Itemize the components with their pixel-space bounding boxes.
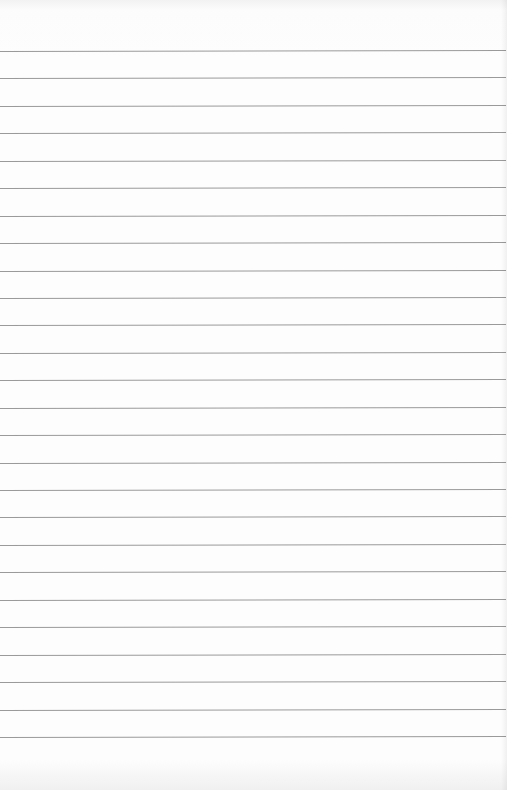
ruled-line [0, 516, 506, 518]
ruled-line [0, 736, 506, 738]
ruled-line [0, 434, 506, 436]
ruled-line [0, 571, 506, 573]
ruled-line [0, 297, 506, 299]
ruled-line [0, 132, 506, 134]
ruled-line [0, 462, 506, 464]
ruled-line [0, 599, 506, 601]
ruled-line [0, 352, 506, 354]
ruled-line [0, 324, 506, 326]
ruled-line [0, 379, 506, 381]
lined-paper-sheet [0, 0, 507, 790]
ruled-line [0, 681, 506, 683]
ruled-line [0, 544, 506, 546]
ruled-line [0, 50, 506, 52]
ruled-line [0, 187, 506, 189]
ruled-line [0, 242, 506, 244]
ruled-line [0, 160, 506, 162]
ruled-line [0, 215, 506, 217]
ruled-line [0, 105, 506, 107]
ruled-line [0, 489, 506, 491]
ruled-line [0, 654, 506, 656]
ruled-line [0, 269, 506, 271]
ruled-line [0, 626, 506, 628]
paper-edge-shadow [501, 0, 507, 790]
ruled-line [0, 77, 506, 79]
ruled-line [0, 708, 506, 710]
ruled-line [0, 407, 506, 409]
